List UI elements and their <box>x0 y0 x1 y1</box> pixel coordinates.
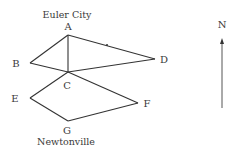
edges <box>30 35 155 121</box>
edge-A-D <box>68 35 155 59</box>
city-label-euler: Euler City <box>43 9 92 20</box>
edge-B-C <box>30 63 68 72</box>
edge-G-F <box>68 103 138 121</box>
edge-midpoint-mark <box>106 44 108 46</box>
edge-C-D <box>68 59 155 72</box>
edge-C-F <box>68 72 138 103</box>
node-label-B: B <box>12 58 19 69</box>
node-label-D: D <box>160 54 168 65</box>
north-label: N <box>218 19 227 30</box>
city-label-newtonville: Newtonville <box>37 136 95 147</box>
edge-A-B <box>30 35 68 63</box>
node-label-C: C <box>63 80 71 91</box>
node-label-G: G <box>63 125 71 136</box>
node-label-E: E <box>11 93 18 104</box>
north-compass: N <box>218 19 227 108</box>
node-labels: ABCDEFG <box>11 21 168 136</box>
edge-E-G <box>30 98 68 121</box>
graph-diagram: ABCDEFG Euler City Newtonville N <box>0 0 240 150</box>
arrowhead-icon <box>220 38 224 44</box>
node-label-F: F <box>144 98 151 109</box>
node-label-A: A <box>63 21 72 32</box>
